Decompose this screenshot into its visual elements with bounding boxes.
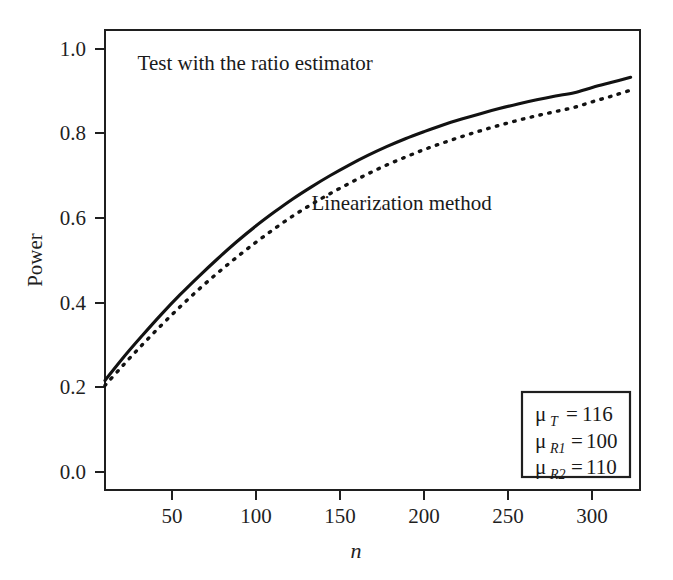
power-curve-figure: 1.0 0.8 0.6 0.4 0.2 0.0 50 100 150 200 2… xyxy=(0,0,673,580)
y-axis-ticks xyxy=(95,49,105,472)
x-tick-label-3: 200 xyxy=(408,504,440,528)
legend-symbol-2: μ xyxy=(535,455,546,479)
x-tick-label-1: 100 xyxy=(240,504,272,528)
annotation-linearization-method: Linearization method xyxy=(312,191,493,215)
x-tick-label-2: 150 xyxy=(324,504,356,528)
legend-symbol-1: μ xyxy=(535,429,546,453)
y-axis-tick-labels: 1.0 0.8 0.6 0.4 0.2 0.0 xyxy=(60,37,87,484)
y-tick-label-5: 1.0 xyxy=(60,37,86,61)
legend-value-2: 110 xyxy=(586,455,617,479)
y-tick-label-1: 0.2 xyxy=(60,375,86,399)
legend-subscript-1: R1 xyxy=(549,441,566,456)
x-tick-label-5: 300 xyxy=(576,504,608,528)
legend-equals-1: = xyxy=(571,429,583,453)
legend-value-1: 100 xyxy=(586,429,618,453)
y-tick-label-2: 0.4 xyxy=(60,291,87,315)
legend-symbol-0: μ xyxy=(535,402,546,426)
x-tick-label-4: 250 xyxy=(492,504,524,528)
y-tick-label-3: 0.6 xyxy=(60,206,86,230)
legend-subscript-2: R2 xyxy=(549,467,566,482)
x-axis-tick-labels: 50 100 150 200 250 300 xyxy=(162,504,608,528)
curve-ratio-estimator xyxy=(105,77,631,380)
plot-frame xyxy=(105,30,640,490)
chart-canvas: 1.0 0.8 0.6 0.4 0.2 0.0 50 100 150 200 2… xyxy=(0,0,673,580)
legend-equals-2: = xyxy=(571,455,583,479)
curve-linearization-method xyxy=(105,90,631,385)
y-tick-label-0: 0.0 xyxy=(60,460,86,484)
x-tick-label-0: 50 xyxy=(162,504,183,528)
y-tick-label-4: 0.8 xyxy=(60,121,86,145)
annotation-ratio-estimator: Test with the ratio estimator xyxy=(138,51,373,75)
legend-row-0: μ T = 116 xyxy=(535,402,613,429)
y-axis-title: Power xyxy=(23,233,47,287)
legend-equals-0: = xyxy=(566,402,578,426)
legend-row-1: μ R1 = 100 xyxy=(535,429,618,456)
legend-subscript-0: T xyxy=(550,414,559,429)
legend-value-0: 116 xyxy=(582,402,613,426)
x-axis-title: n xyxy=(351,538,362,563)
parameter-legend: μ T = 116 μ R1 = 100 μ R2 = 110 xyxy=(522,392,630,482)
x-axis-ticks xyxy=(172,490,592,500)
